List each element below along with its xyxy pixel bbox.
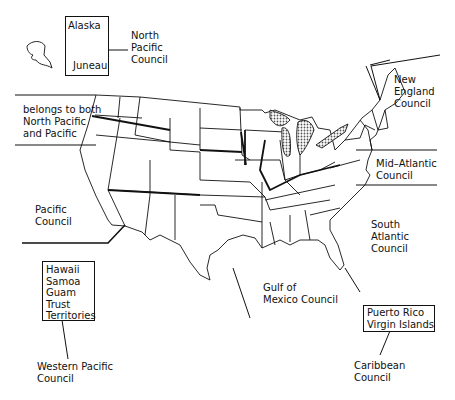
council-map: Alaska Juneau North Pacific Council New … [0, 0, 455, 400]
gulf-of-mexico-council-label: Gulf of Mexico Council [263, 282, 338, 306]
alaska-box: Alaska Juneau [65, 16, 109, 76]
juneau-label: Juneau [73, 60, 107, 72]
caribbean-territories: Puerto Rico Virgin Islands [367, 307, 434, 330]
alaska-title: Alaska [68, 20, 101, 32]
mid-atlantic-council-label: Mid–Atlantic Council [376, 158, 437, 182]
western-pacific-council-label: Western Pacific Council [37, 361, 113, 385]
caribbean-council-label: Caribbean Council [354, 360, 405, 384]
shared-region-label: belongs to both North Pacific and Pacifi… [23, 104, 101, 140]
western-pacific-box: Hawaii Samoa Guam Trust Territories [42, 261, 95, 321]
boundary-gulf-west [233, 268, 250, 318]
pacific-council-label: Pacific Council [35, 204, 72, 228]
south-atlantic-council-label: South Atlantic Council [371, 219, 409, 255]
alaska-shape [27, 42, 52, 69]
new-england-council-label: New England Council [394, 74, 435, 110]
western-pacific-territories: Hawaii Samoa Guam Trust Territories [46, 264, 96, 322]
caribbean-box: Puerto Rico Virgin Islands [363, 305, 435, 332]
leader-caribbean-fl [345, 268, 360, 292]
north-pacific-council-label: North Pacific Council [131, 30, 168, 66]
leader-western-pacific [62, 320, 68, 359]
us-outline [80, 68, 405, 280]
